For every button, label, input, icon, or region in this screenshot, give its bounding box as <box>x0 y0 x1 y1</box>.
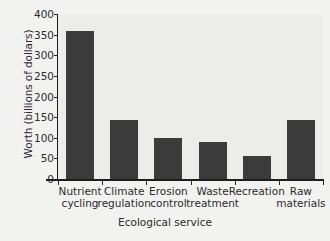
x-axis-tick-labels: NutrientcyclingClimateregulationErosionc… <box>46 186 324 220</box>
y-tick-label: 200 <box>20 91 54 102</box>
y-tick-mark <box>54 14 58 15</box>
bars-layer <box>58 14 323 179</box>
bar <box>66 31 94 180</box>
bar <box>199 142 227 179</box>
x-axis-line <box>46 179 324 181</box>
x-tick-mark <box>235 180 236 185</box>
y-tick-mark <box>54 76 58 77</box>
x-tick-label-line: Raw <box>272 186 330 198</box>
bar-chart-figure: Worth (billions of dollars) 050100150200… <box>0 0 330 241</box>
y-tick-label: 50 <box>20 153 54 164</box>
y-tick-mark <box>54 158 58 159</box>
y-tick-label: 350 <box>20 29 54 40</box>
x-tick-mark <box>58 180 59 185</box>
y-tick-label: 100 <box>20 133 54 144</box>
y-tick-label: 250 <box>20 71 54 82</box>
x-tick-label-line: treatment <box>184 198 242 210</box>
y-tick-mark <box>54 117 58 118</box>
y-tick-mark <box>54 138 58 139</box>
bar <box>154 138 182 179</box>
x-tick-mark <box>146 180 147 185</box>
x-axis-title: Ecological service <box>0 216 330 228</box>
bar <box>287 120 315 179</box>
x-tick-mark <box>323 180 324 185</box>
y-tick-label: 150 <box>20 112 54 123</box>
y-tick-mark <box>54 97 58 98</box>
y-axis-tick-labels: 050100150200250300350400 <box>20 8 54 186</box>
x-tick-mark <box>279 180 280 185</box>
x-tick-mark <box>102 180 103 185</box>
bar <box>110 120 138 179</box>
x-tick-label: Rawmaterials <box>272 186 330 209</box>
y-tick-mark <box>54 55 58 56</box>
x-tick-label-line: materials <box>272 198 330 210</box>
y-tick-mark <box>54 35 58 36</box>
y-tick-label: 300 <box>20 50 54 61</box>
bar <box>243 156 271 179</box>
x-tick-mark <box>191 180 192 185</box>
y-tick-label: 400 <box>20 9 54 20</box>
